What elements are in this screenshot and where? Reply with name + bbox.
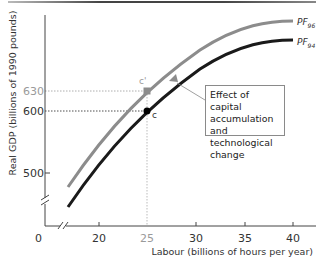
y-tick-label-630: 630 [23, 85, 44, 98]
x-tick-label-0: 0 [35, 232, 42, 245]
shift-arrow-icon [169, 74, 178, 82]
y-tick-label-500: 500 [23, 167, 44, 180]
point-c [144, 108, 151, 115]
callout-line-3: technological [210, 137, 280, 149]
callout-line-4: change [210, 149, 280, 161]
y-axis-title: Real GDP (billions of 1990 pounds) [7, 11, 18, 176]
callout-line-1: Effect of capital [210, 89, 280, 113]
x-tick-label-40: 40 [286, 232, 300, 245]
y-tick-label-600: 600 [23, 105, 44, 118]
point-c-label: c [152, 110, 157, 120]
point-c-prime-label: c' [139, 76, 146, 86]
annotation-callout: Effect of capital accumulation and techn… [205, 85, 285, 136]
x-tick-label-25: 25 [140, 232, 154, 245]
callout-line-2: accumulation and [210, 113, 280, 137]
x-axis-title: Labour (billions of hours per year) [151, 246, 313, 257]
x-tick-label-35: 35 [238, 232, 252, 245]
x-tick-label-20: 20 [92, 232, 106, 245]
pf96-label: PF96 [297, 17, 315, 29]
x-tick-label-30: 30 [189, 232, 203, 245]
pf94-label: PF94 [297, 37, 315, 49]
point-c-prime [144, 88, 151, 95]
callout-leader-line [177, 83, 205, 100]
